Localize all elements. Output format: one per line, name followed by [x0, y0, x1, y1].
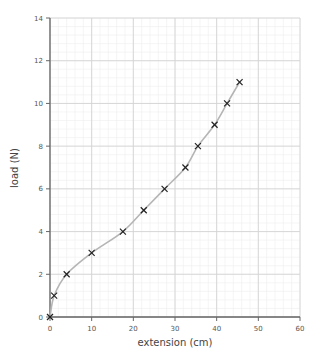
- x-tick-label: 60: [296, 325, 305, 333]
- y-tick-label: 2: [39, 271, 43, 279]
- x-tick-label: 10: [87, 325, 96, 333]
- y-tick-label: 12: [34, 57, 43, 65]
- x-tick-label: 40: [212, 325, 221, 333]
- y-tick-label: 8: [39, 143, 43, 151]
- data-markers: [47, 79, 243, 320]
- major-grid: [50, 18, 300, 317]
- axes: [46, 18, 300, 321]
- y-tick-label: 6: [39, 185, 44, 193]
- x-tick-label: 30: [171, 325, 180, 333]
- y-tick-label: 10: [34, 100, 43, 108]
- x-tick-label: 20: [129, 325, 138, 333]
- y-axis-title: load (N): [9, 148, 20, 188]
- x-axis-title: extension (cm): [138, 337, 213, 348]
- x-tick-label: 50: [254, 325, 263, 333]
- y-tick-label: 14: [34, 15, 43, 23]
- tick-labels: 024681012140102030405060: [34, 15, 304, 334]
- x-tick-label: 0: [48, 325, 52, 333]
- y-tick-label: 0: [39, 314, 43, 322]
- y-tick-label: 4: [39, 228, 44, 236]
- load-extension-chart: 024681012140102030405060 extension (cm) …: [0, 0, 315, 364]
- best-fit-curve: [50, 82, 240, 317]
